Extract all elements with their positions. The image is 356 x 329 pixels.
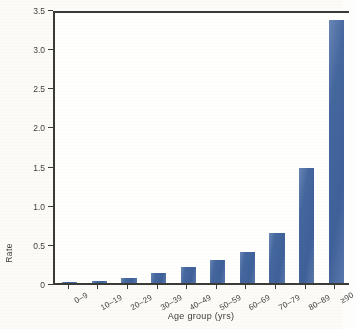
y-tick-label: 0.5 [33, 241, 45, 251]
x-tick-label: 0–9 [73, 290, 90, 305]
y-tick-label: 1.5 [33, 163, 45, 173]
x-tick-label: 10–19 [99, 293, 124, 312]
y-axis-title-wrapper: Rate [2, 120, 26, 160]
x-tick-label: 50–59 [218, 293, 243, 312]
y-tick-label: 2.5 [33, 84, 45, 94]
bar [329, 20, 344, 283]
y-tick-label: 3.5 [33, 6, 45, 16]
x-tick-label: ≥90 [339, 290, 356, 305]
y-tick-mark [48, 127, 53, 128]
x-tick-label: 60–69 [247, 293, 272, 312]
y-tick-label: 2.0 [33, 123, 45, 133]
y-tick-mark [48, 10, 53, 11]
bar [121, 278, 136, 283]
bar [92, 281, 107, 283]
bar [181, 267, 196, 283]
x-tick-label: 30–39 [159, 293, 184, 312]
bar [151, 273, 166, 283]
x-axis-title: Age group (yrs) [53, 311, 349, 321]
y-tick-mark [48, 245, 53, 246]
y-tick-label: 3.0 [33, 45, 45, 55]
x-tick-label: 20–29 [129, 293, 154, 312]
bar [299, 168, 314, 283]
y-axis-title: Rate [4, 243, 14, 263]
x-tick-label: 80–89 [307, 293, 332, 312]
bar [210, 260, 225, 283]
y-tick-mark [48, 49, 53, 50]
x-tick-label: 40–49 [188, 293, 213, 312]
y-tick-mark [48, 167, 53, 168]
bar-series [55, 13, 349, 283]
bar [240, 252, 255, 283]
y-tick-label: 1.0 [33, 202, 45, 212]
plot-area [53, 11, 349, 285]
bar [269, 233, 284, 283]
y-tick-mark [48, 206, 53, 207]
bar [62, 282, 77, 283]
y-tick-mark [48, 88, 53, 89]
x-tick-label: 70–79 [277, 293, 302, 312]
y-tick-label: 0 [40, 280, 45, 290]
